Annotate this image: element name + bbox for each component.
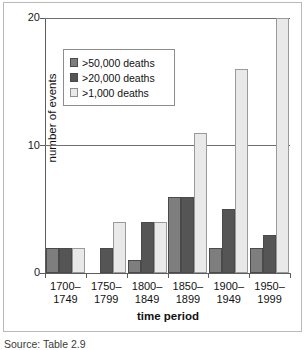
x-axis-label-line: 1950–	[249, 280, 290, 293]
bar[interactable]	[72, 248, 85, 274]
bar[interactable]	[235, 69, 248, 273]
legend-label: >20,000 deaths	[82, 72, 155, 84]
bar[interactable]	[141, 222, 154, 273]
x-axis-label-line: 1749	[45, 293, 86, 306]
figure-caption: Source: Table 2.9	[4, 338, 86, 350]
x-axis-label: 1800–1849	[127, 280, 168, 306]
bar-group	[209, 18, 248, 273]
y-tick-label-20: 20	[14, 12, 40, 23]
x-axis-label: 1700–1749	[45, 280, 86, 306]
chart-legend: >50,000 deaths>20,000 deaths>1,000 death…	[63, 49, 175, 106]
x-axis-label: 1950–1999	[249, 280, 290, 306]
x-axis-label-line: 1949	[208, 293, 249, 306]
bar[interactable]	[100, 248, 113, 274]
x-axis-label-line: 1750–	[86, 280, 127, 293]
bar[interactable]	[263, 235, 276, 273]
bar[interactable]	[154, 222, 167, 273]
x-axis-label-line: 1850–	[168, 280, 209, 293]
x-axis-title: time period	[45, 310, 291, 322]
x-axis-label: 1900–1949	[208, 280, 249, 306]
legend-item[interactable]: >20,000 deaths	[70, 70, 168, 85]
bar[interactable]	[59, 248, 72, 274]
bar[interactable]	[113, 222, 126, 273]
bar[interactable]	[209, 248, 222, 274]
legend-label: >1,000 deaths	[82, 87, 149, 99]
x-tick-mark	[208, 273, 209, 278]
x-axis-label-line: 1800–	[127, 280, 168, 293]
x-tick-mark	[290, 273, 291, 278]
y-tick-label-0: 0	[14, 267, 40, 278]
x-tick-mark	[86, 273, 87, 278]
bar[interactable]	[46, 248, 59, 274]
bar[interactable]	[194, 133, 207, 273]
x-axis-label-line: 1799	[86, 293, 127, 306]
y-tick-label-10: 10	[14, 140, 40, 151]
legend-swatch-icon	[70, 58, 78, 67]
legend-label: >50,000 deaths	[82, 57, 155, 69]
x-tick-mark	[127, 273, 128, 278]
x-axis-labels: 1700–17491750–17991800–18491850–18991900…	[45, 280, 291, 308]
legend-swatch-icon	[70, 73, 78, 82]
x-axis-label-line: 1700–	[45, 280, 86, 293]
legend-swatch-icon	[70, 88, 78, 97]
x-tick-mark	[45, 273, 46, 278]
x-axis-label-line: 1999	[249, 293, 290, 306]
bar-group	[250, 18, 289, 273]
figure-container: number of events 20 10 0 1700–17491750–1…	[0, 0, 305, 350]
bar[interactable]	[250, 248, 263, 274]
x-axis-label: 1850–1899	[168, 280, 209, 306]
bar[interactable]	[222, 209, 235, 273]
x-tick-mark	[249, 273, 250, 278]
x-axis-label-line: 1900–	[208, 280, 249, 293]
bar[interactable]	[181, 197, 194, 274]
bar[interactable]	[168, 197, 181, 274]
legend-item[interactable]: >1,000 deaths	[70, 85, 168, 100]
x-axis-label-line: 1849	[127, 293, 168, 306]
legend-item[interactable]: >50,000 deaths	[70, 55, 168, 70]
x-axis-label-line: 1899	[168, 293, 209, 306]
bar[interactable]	[128, 260, 141, 273]
x-tick-mark	[168, 273, 169, 278]
x-axis-label: 1750–1799	[86, 280, 127, 306]
bar[interactable]	[276, 18, 289, 273]
